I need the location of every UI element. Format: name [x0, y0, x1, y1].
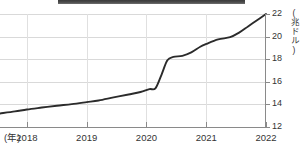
x-tick-mark: [87, 122, 88, 128]
x-tick-label: 2019: [76, 133, 97, 143]
plot-area: [0, 14, 266, 127]
x-axis-title: (年): [4, 133, 20, 143]
y-tick-mark: [265, 104, 270, 105]
y-tick-mark: [265, 82, 270, 83]
y-tick-label: 18: [272, 54, 282, 63]
x-tick-label: 2020: [136, 133, 157, 143]
x-axis-line: [0, 127, 266, 128]
series-layer: [0, 14, 266, 127]
y-tick-mark: [265, 59, 270, 60]
y-tick-mark: [265, 14, 270, 15]
x-tick-mark: [146, 122, 147, 128]
x-tick-mark: [266, 122, 267, 128]
y-tick-label: 12: [272, 122, 282, 131]
money-supply-line-chart: 121416182022 20182019202020212022 (年) (兆…: [0, 0, 301, 155]
y-tick-mark: [265, 37, 270, 38]
y-axis-unit-label: (兆ドル): [286, 8, 298, 55]
y-tick-label: 22: [272, 9, 282, 18]
title-bar-redacted: [58, 0, 245, 4]
x-tick-mark: [206, 122, 207, 128]
x-tick-label: 2022: [255, 133, 276, 143]
y-tick-label: 20: [272, 32, 282, 41]
y-tick-label: 16: [272, 77, 282, 86]
data-line: [0, 14, 266, 113]
y-tick-label: 14: [272, 99, 282, 108]
y-axis-line: [265, 14, 266, 127]
x-tick-label: 2021: [196, 133, 217, 143]
x-tick-mark: [27, 122, 28, 128]
